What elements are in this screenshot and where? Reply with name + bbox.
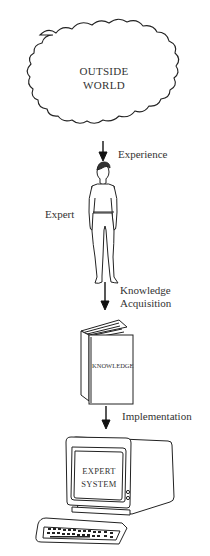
- book-title: KNOWLEDGE: [92, 362, 134, 369]
- screen-label-line2: SYSTEM: [76, 478, 122, 491]
- screen-label-line1: EXPERT: [76, 465, 122, 478]
- outside-label-line2: WORLD: [60, 78, 148, 92]
- edge-label-line1: Knowledge: [120, 284, 171, 297]
- outside-label-line1: OUTSIDE: [60, 64, 148, 78]
- screen-label: EXPERT SYSTEM: [76, 465, 122, 491]
- person-icon: [89, 162, 118, 283]
- node-label-expert: Expert: [45, 208, 74, 221]
- arrow-experience: [99, 141, 107, 161]
- edge-label-implementation: Implementation: [122, 410, 192, 423]
- arrow-implementation: [102, 406, 110, 429]
- edge-label-knowledge-acquisition: Knowledge Acquisition: [120, 284, 171, 310]
- cloud-label: OUTSIDE WORLD: [60, 64, 148, 92]
- edge-label-experience: Experience: [118, 148, 167, 161]
- edge-label-line2: Acquisition: [120, 297, 171, 310]
- arrow-knowledge-acquisition: [101, 282, 109, 310]
